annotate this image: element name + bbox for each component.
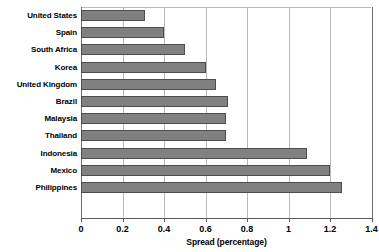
category-label: United States — [0, 10, 77, 21]
bar — [81, 96, 228, 107]
bar — [81, 130, 226, 141]
bar — [81, 62, 206, 73]
bar — [81, 79, 216, 90]
tick-label: 0.8 — [227, 223, 267, 235]
tick-mark — [289, 218, 290, 222]
x-axis-title: Spread (percentage) — [81, 237, 372, 247]
category-label: Spain — [0, 27, 77, 38]
tick-label: 1.4 — [352, 223, 379, 235]
plot-top-border — [81, 7, 371, 8]
tick-mark — [164, 218, 165, 222]
tick-label: 0.2 — [103, 223, 143, 235]
gridline-1.4 — [372, 7, 373, 218]
bar — [81, 148, 307, 159]
category-label: Thailand — [0, 130, 77, 141]
tick-label: 0.4 — [144, 223, 184, 235]
category-label: Malaysia — [0, 113, 77, 124]
bar — [81, 27, 164, 38]
bar — [81, 165, 330, 176]
bar — [81, 10, 145, 21]
tick-label: 0.6 — [186, 223, 226, 235]
tick-label: 0 — [61, 223, 101, 235]
bar — [81, 113, 226, 124]
tick-mark — [206, 218, 207, 222]
tick-label: 1 — [269, 223, 309, 235]
tick-mark — [372, 218, 373, 222]
category-label: Brazil — [0, 96, 77, 107]
bar — [81, 44, 185, 55]
tick-mark — [247, 218, 248, 222]
category-label: South Africa — [0, 44, 77, 55]
category-label: Philippines — [0, 182, 77, 193]
tick-mark — [123, 218, 124, 222]
category-label: Korea — [0, 62, 77, 73]
category-label: Mexico — [0, 165, 77, 176]
category-label: Indonesia — [0, 148, 77, 159]
tick-mark — [81, 218, 82, 222]
bar-chart: 00.20.40.60.811.21.4 United StatesSpainS… — [0, 0, 379, 252]
bar — [81, 182, 342, 193]
plot-area — [81, 7, 371, 218]
tick-mark — [330, 218, 331, 222]
x-axis-line — [81, 218, 372, 219]
tick-label: 1.2 — [310, 223, 350, 235]
category-label: United Kingdom — [0, 79, 77, 90]
